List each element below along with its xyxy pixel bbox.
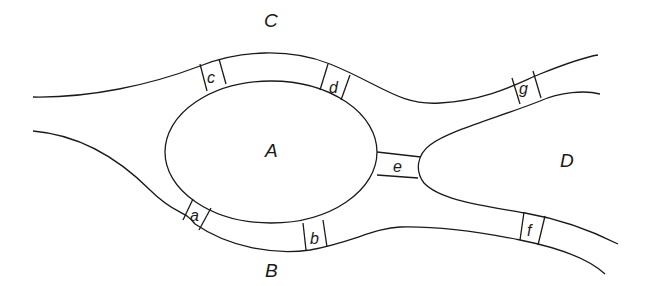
shore-c	[33, 53, 598, 103]
label-d: D	[560, 150, 574, 171]
svg-text:b: b	[310, 230, 319, 247]
island-d-edge	[418, 92, 618, 244]
label-a: A	[264, 140, 278, 161]
label-c: C	[264, 10, 278, 31]
shore-b	[195, 224, 605, 274]
svg-text:d: d	[329, 79, 339, 96]
svg-text:a: a	[190, 207, 199, 224]
svg-text:g: g	[519, 80, 528, 97]
svg-text:c: c	[207, 69, 215, 86]
bridge-f: f	[520, 212, 545, 245]
shore-b-upper	[33, 131, 195, 224]
bridge-d: d	[320, 64, 350, 100]
label-b: B	[265, 260, 278, 281]
svg-text:e: e	[393, 158, 402, 175]
konigsberg-map: c d g e a b f C A B D	[0, 0, 649, 286]
bridge-b: b	[303, 220, 327, 250]
bridge-e: e	[377, 152, 421, 178]
svg-text:f: f	[527, 222, 533, 239]
